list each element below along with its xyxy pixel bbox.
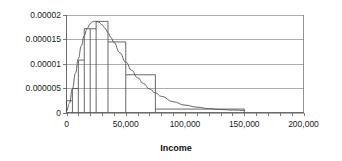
x-tick-label-0: 0 <box>64 119 69 129</box>
y-tick-label-0: 0 <box>56 108 61 118</box>
histogram-chart: 00.0000050.000010.0000150.00002 050,0001… <box>0 0 342 161</box>
chart-figure: 00.0000050.000010.0000150.00002 050,0001… <box>0 0 342 161</box>
x-tick-label-4: 200,000 <box>288 119 319 129</box>
x-tick-label-2: 100,000 <box>170 119 201 129</box>
y-tick-label-4: 0.00002 <box>30 10 61 20</box>
y-tick-label-2: 0.00001 <box>30 59 61 69</box>
chart-background <box>0 0 342 161</box>
y-tick-label-3: 0.000015 <box>26 34 62 44</box>
x-tick-label-1: 50,000 <box>113 119 139 129</box>
x-tick-label-3: 150,000 <box>229 119 260 129</box>
x-axis-title: Income <box>160 143 192 153</box>
y-tick-label-1: 0.000005 <box>26 83 62 93</box>
